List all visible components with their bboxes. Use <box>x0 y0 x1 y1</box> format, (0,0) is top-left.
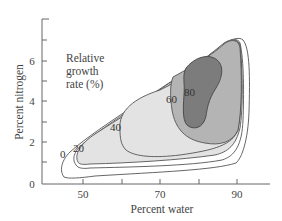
y-ticks <box>42 19 49 162</box>
y-tick-label-4: 4 <box>29 95 35 107</box>
legend-line-2: growth <box>66 65 99 78</box>
x-tick-label-70: 70 <box>155 188 167 200</box>
x-tick-label-50: 50 <box>78 188 90 200</box>
contour-label-0: 0 <box>60 148 66 160</box>
y-tick-label-2: 2 <box>29 136 35 148</box>
contour-chart: 0 2 4 6 50 70 90 Percent water Percent n… <box>0 0 282 221</box>
contour-label-60: 60 <box>166 93 178 105</box>
legend-line-1: Relative <box>66 52 104 64</box>
legend: Relative growth rate (%) <box>66 52 104 91</box>
contour-label-20: 20 <box>73 142 85 154</box>
contour-label-40: 40 <box>110 121 122 133</box>
legend-line-3: rate (%) <box>66 78 104 91</box>
x-tick-label-90: 90 <box>232 188 244 200</box>
y-tick-label-6: 6 <box>29 55 35 67</box>
y-tick-label-0: 0 <box>29 178 35 190</box>
contour-label-80: 80 <box>184 86 196 98</box>
x-ticks <box>83 179 237 184</box>
x-axis-title: Percent water <box>131 203 194 215</box>
y-axis-title: Percent nitrogen <box>13 64 26 140</box>
